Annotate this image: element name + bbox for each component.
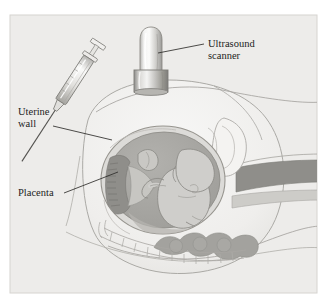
- maternal-spine: [232, 154, 322, 208]
- label-ultrasound-scanner-line1: Ultrasound: [208, 38, 255, 49]
- label-uterine-wall-line2: wall: [18, 118, 36, 129]
- label-ultrasound-scanner-line2: scanner: [208, 50, 241, 61]
- amniocentesis-figure: Ultrasound scanner Uterine wall Placenta: [0, 0, 328, 304]
- fetal-upper-limb: [138, 150, 158, 171]
- label-uterine-wall-line1: Uterine: [18, 106, 50, 117]
- label-placenta-line1: Placenta: [18, 187, 54, 198]
- label-group-placenta: Placenta: [18, 187, 54, 198]
- illustration-root: Ultrasound scanner Uterine wall Placenta: [0, 0, 328, 304]
- scanner-body: [140, 27, 162, 72]
